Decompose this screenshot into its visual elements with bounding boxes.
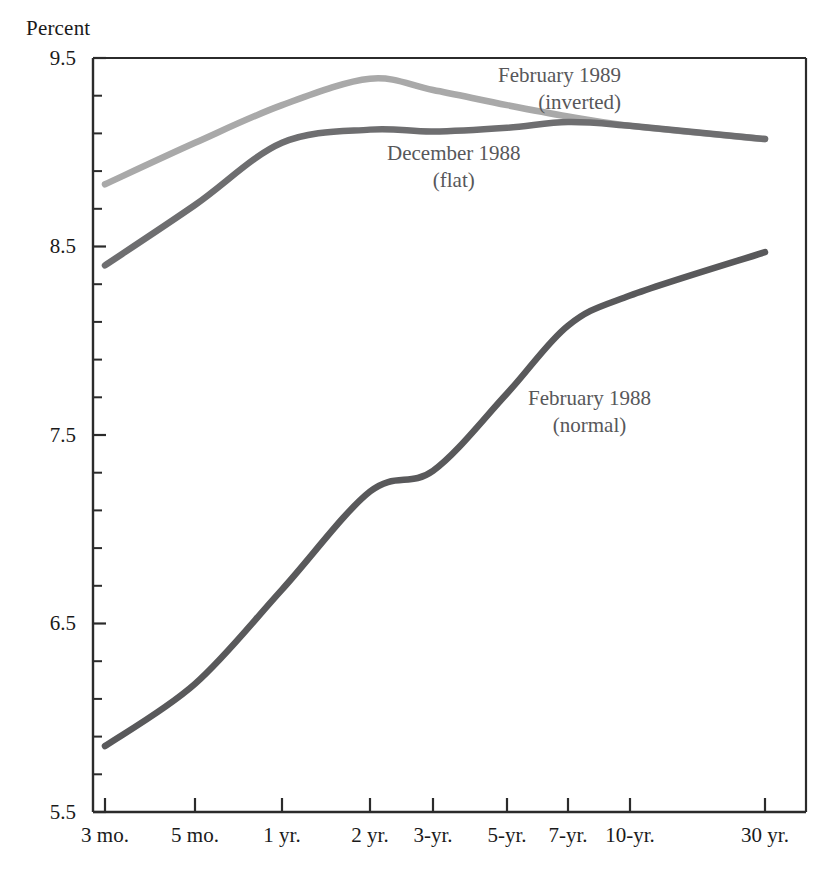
annotation-sublabel: (normal): [528, 412, 651, 439]
y-axis-ticks: [93, 58, 106, 812]
x-tick-label-6: 7-yr.: [548, 823, 587, 848]
x-tick-label-8: 30 yr.: [741, 823, 789, 848]
y-tick-label-3: 6.5: [16, 611, 76, 636]
x-tick-label-3: 2 yr.: [351, 823, 388, 848]
y-tick-label-4: 5.5: [16, 800, 76, 825]
annotation-sublabel: (inverted): [498, 89, 621, 116]
x-axis-ticks: [105, 798, 765, 812]
plot-area: [0, 0, 835, 878]
y-tick-label-1: 8.5: [16, 234, 76, 259]
series-line-2: [105, 252, 765, 746]
x-tick-label-2: 1 yr.: [263, 823, 300, 848]
x-tick-label-5: 5-yr.: [487, 823, 526, 848]
y-tick-label-0: 9.5: [16, 46, 76, 71]
annotation-label: December 1988: [387, 141, 521, 165]
annotation-february-1988: February 1988 (normal): [528, 385, 651, 439]
x-tick-label-4: 3-yr.: [413, 823, 452, 848]
x-tick-label-7: 10-yr.: [605, 823, 655, 848]
x-tick-label-0: 3 mo.: [81, 823, 129, 848]
annotation-december-1988: December 1988 (flat): [387, 140, 521, 194]
annotation-february-1989: February 1989 (inverted): [498, 62, 621, 116]
x-tick-label-1: 5 mo.: [171, 823, 219, 848]
y-tick-label-2: 7.5: [16, 423, 76, 448]
annotation-label: February 1988: [528, 386, 651, 410]
annotation-label: February 1989: [498, 63, 621, 87]
annotation-sublabel: (flat): [387, 167, 521, 194]
yield-curve-chart: Percent 9.5 8.5 7.5 6.5 5.5 3 mo.5 mo.1 …: [0, 0, 835, 878]
